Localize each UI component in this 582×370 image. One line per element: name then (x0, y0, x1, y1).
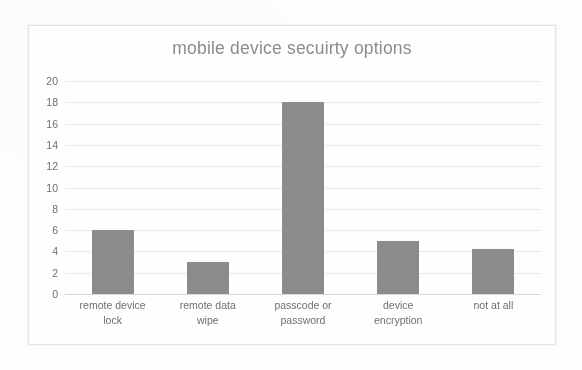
y-axis-tick-label: 4 (52, 245, 58, 257)
x-axis-category-label: passcode orpassword (255, 298, 350, 327)
bar (187, 262, 229, 294)
gridline (65, 294, 541, 295)
x-axis-category-labels: remote devicelockremote datawipepasscode… (65, 298, 541, 344)
x-axis-category-label: remote datawipe (160, 298, 255, 327)
y-axis-tick-label: 12 (46, 160, 58, 172)
x-axis-category-label: remote devicelock (65, 298, 160, 327)
bar (472, 249, 514, 294)
bar (377, 241, 419, 294)
x-axis-category-label-line: wipe (160, 313, 255, 328)
plot-area: 20181614121086420 (65, 81, 541, 294)
y-axis-tick-label: 14 (46, 139, 58, 151)
y-axis-tick-label: 20 (46, 75, 58, 87)
x-axis-category-label-line: remote data (160, 298, 255, 313)
x-axis-category-label: not at all (446, 298, 541, 313)
x-axis-category-label-line: remote device (65, 298, 160, 313)
y-axis-tick-label: 8 (52, 203, 58, 215)
x-axis-category-label-line: lock (65, 313, 160, 328)
gridline (65, 81, 541, 82)
x-axis-category-label-line: encryption (351, 313, 446, 328)
chart-container: mobile device secuirty options 201816141… (28, 25, 556, 345)
x-axis-category-label-line: passcode or (255, 298, 350, 313)
x-axis-category-label-line: not at all (446, 298, 541, 313)
x-axis-category-label-line: password (255, 313, 350, 328)
y-axis-tick-label: 16 (46, 118, 58, 130)
x-axis-category-label: deviceencryption (351, 298, 446, 327)
chart-title: mobile device secuirty options (29, 38, 555, 59)
y-axis-tick-label: 0 (52, 288, 58, 300)
scanned-page-background: mobile device secuirty options 201816141… (0, 0, 582, 370)
y-axis-tick-label: 6 (52, 224, 58, 236)
x-axis-category-label-line: device (351, 298, 446, 313)
bar (282, 102, 324, 294)
y-axis-tick-label: 2 (52, 267, 58, 279)
y-axis-tick-label: 10 (46, 182, 58, 194)
bar (92, 230, 134, 294)
y-axis-tick-label: 18 (46, 96, 58, 108)
